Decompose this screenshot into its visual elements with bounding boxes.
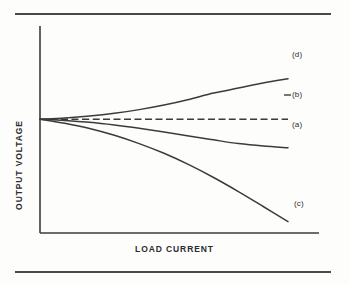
curve-label-b: (b) bbox=[292, 90, 302, 99]
plot-curves bbox=[40, 79, 288, 222]
figure-canvas: LOAD CURRENT OUTPUT VOLTAGE (d) (b) (a) … bbox=[0, 0, 349, 284]
curve-d bbox=[40, 79, 288, 119]
y-axis-title: OUTPUT VOLTAGE bbox=[14, 105, 24, 225]
x-axis-title: LOAD CURRENT bbox=[0, 244, 349, 254]
curve-label-a: (a) bbox=[292, 120, 302, 129]
plot-axes bbox=[40, 26, 319, 233]
curve-c bbox=[40, 119, 288, 221]
curve-a bbox=[40, 119, 288, 148]
curve-label-c: (c) bbox=[294, 199, 304, 208]
load-regulation-plot bbox=[0, 0, 349, 284]
curve-label-d: (d) bbox=[292, 50, 302, 59]
